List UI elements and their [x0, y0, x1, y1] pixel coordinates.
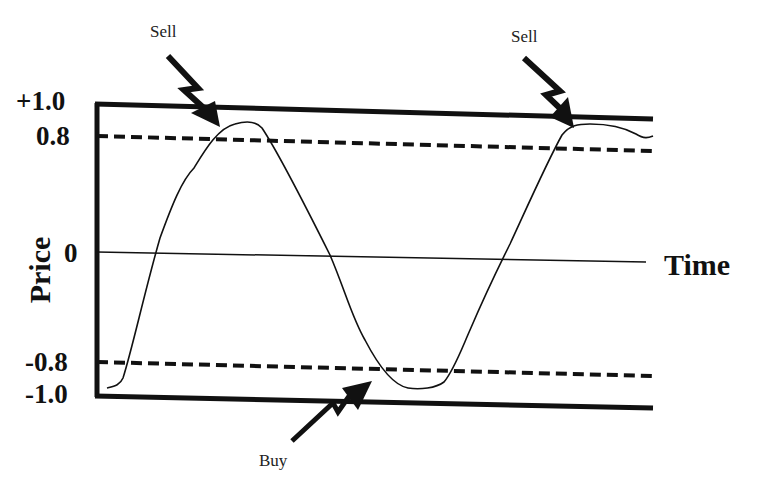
sell-label-2: Sell — [511, 27, 537, 47]
buy-arrow-icon — [292, 381, 372, 441]
ytick-minus-0-8: -0.8 — [25, 349, 68, 376]
x-axis-title: Time — [664, 248, 730, 282]
chart-canvas — [0, 0, 758, 486]
ytick-0-8: 0.8 — [36, 123, 70, 150]
buy-threshold-line — [97, 362, 653, 376]
buy-label: Buy — [259, 451, 287, 471]
y-axis-title: Price — [23, 225, 57, 315]
sell-arrow-1-icon — [168, 56, 220, 127]
price-curve — [107, 122, 653, 389]
sell-label-1: Sell — [150, 22, 176, 42]
ytick-minus-1: -1.0 — [25, 381, 68, 408]
ytick-zero: 0 — [64, 240, 78, 267]
lower-bound-line — [95, 396, 653, 408]
ytick-plus-1: +1.0 — [16, 88, 65, 115]
time-axis-line — [97, 252, 646, 262]
sell-threshold-line — [97, 136, 653, 151]
